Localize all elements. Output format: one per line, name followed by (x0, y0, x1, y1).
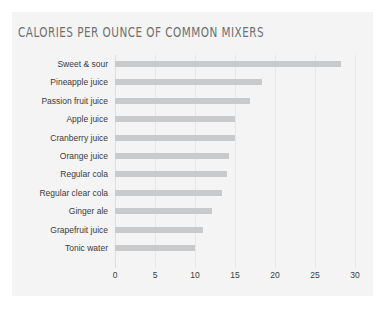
bar-row (115, 55, 355, 73)
bar-row (115, 165, 355, 183)
chart-figure: Calories per ounce of common mixers Swee… (0, 0, 386, 314)
category-label: Regular cola (60, 165, 108, 183)
category-label: Apple juice (66, 110, 108, 128)
value-axis-labels: 051015202530 (0, 270, 386, 284)
bar-row (115, 147, 355, 165)
bar-row (115, 129, 355, 147)
bar-row (115, 73, 355, 91)
x-tick-label: 10 (190, 270, 199, 280)
bar-row (115, 221, 355, 239)
bar-row (115, 92, 355, 110)
bar-row (115, 239, 355, 257)
x-tick-label: 20 (270, 270, 279, 280)
bar (115, 135, 235, 141)
bar (115, 227, 203, 233)
category-label: Cranberry juice (50, 129, 108, 147)
x-tick-label: 15 (230, 270, 239, 280)
bar (115, 171, 227, 177)
bar (115, 61, 341, 67)
bar (115, 116, 235, 122)
chart-title: Calories per ounce of common mixers (18, 24, 264, 40)
bar-row (115, 202, 355, 220)
category-label: Tonic water (65, 239, 108, 257)
plot-area (115, 55, 355, 268)
bar (115, 153, 229, 159)
category-label: Ginger ale (69, 202, 108, 220)
x-tick-label: 0 (113, 270, 118, 280)
category-label: Pineapple juice (50, 73, 108, 91)
category-label: Passion fruit juice (41, 92, 108, 110)
bar (115, 98, 250, 104)
category-label: Sweet & sour (57, 55, 108, 73)
bar (115, 208, 212, 214)
category-label: Orange juice (60, 147, 108, 165)
bar (115, 79, 262, 85)
gridline (355, 55, 356, 268)
x-tick-label: 5 (153, 270, 158, 280)
x-tick-label: 30 (350, 270, 359, 280)
bar (115, 245, 195, 251)
category-axis-labels: Sweet & sourPineapple juicePassion fruit… (0, 55, 108, 268)
bar (115, 190, 222, 196)
x-tick-label: 25 (310, 270, 319, 280)
bar-row (115, 110, 355, 128)
bar-row (115, 184, 355, 202)
category-label: Grapefruit juice (50, 221, 108, 239)
category-label: Regular clear cola (39, 184, 108, 202)
